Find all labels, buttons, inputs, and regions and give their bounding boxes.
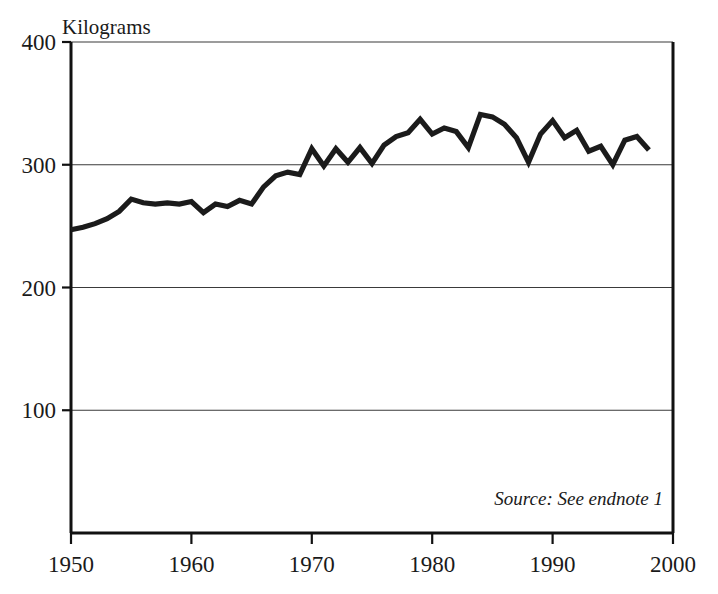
source-note: Source: See endnote 1 (494, 488, 663, 509)
x-tick-label: 1990 (530, 552, 576, 577)
y-tick-label: 100 (22, 398, 57, 423)
x-tick-label: 1970 (289, 552, 335, 577)
data-series-line (71, 114, 649, 229)
y-tick-label: 200 (22, 276, 57, 301)
x-tick-label: 1980 (409, 552, 455, 577)
y-tick-label: 400 (22, 30, 57, 55)
x-tick-label: 1960 (168, 552, 214, 577)
x-tick-label: 2000 (650, 552, 696, 577)
gridlines (71, 42, 673, 410)
line-chart: Kilograms 100200300400 19501960197019801… (0, 0, 718, 594)
y-axis-title: Kilograms (62, 15, 151, 39)
chart-figure: Kilograms 100200300400 19501960197019801… (0, 0, 718, 594)
x-tick-label: 1950 (48, 552, 94, 577)
y-tick-label: 300 (22, 153, 57, 178)
y-axis-ticks: 100200300400 (22, 30, 72, 423)
x-axis-ticks: 195019601970198019902000 (48, 533, 696, 577)
